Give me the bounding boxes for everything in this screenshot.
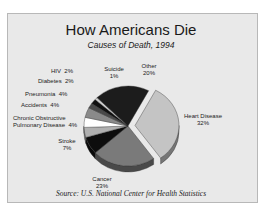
label-other: Other20% [137, 63, 161, 77]
label-pneumonia: Pneumonia 4% [25, 91, 67, 98]
label-suicide: Suicide1% [102, 66, 126, 80]
label-copd: Chronic ObstructivePulmonary Disease 4% [13, 115, 77, 129]
label-heart-disease: Heart Disease32% [180, 113, 226, 127]
label-diabetes: Diabetes 2% [38, 78, 74, 85]
label-hiv: HIV 2% [51, 68, 73, 75]
label-accidents: Accidents 4% [21, 102, 59, 109]
chart-source: Source: U.S. National Center for Health … [0, 189, 262, 198]
label-stroke: Stroke7% [52, 138, 82, 152]
label-cancer: Cancer23% [87, 176, 117, 190]
